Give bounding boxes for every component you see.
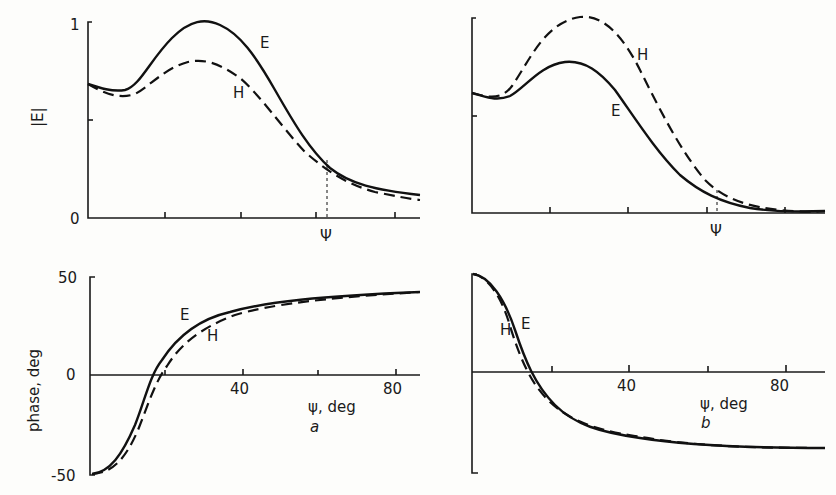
y-tick-1: 1 (70, 16, 80, 34)
label-h: H (637, 46, 648, 64)
curve-h (472, 17, 825, 212)
label-e: E (260, 34, 269, 52)
y-axis (472, 274, 478, 473)
label-h: H (500, 321, 511, 339)
y-tick-neg50: -50 (51, 467, 76, 485)
panel-a-magnitude: 1 0 |E| Ψ E H (29, 16, 420, 245)
panel-label-b: b (701, 414, 711, 432)
curve-e (88, 21, 420, 195)
x-tick-80: 80 (383, 380, 402, 398)
psi-marker: Ψ (320, 227, 332, 245)
label-e: E (180, 306, 189, 324)
x-ticks (165, 369, 396, 375)
figure: 1 0 |E| Ψ E H Ψ E H 50 0 -50 phase, deg … (0, 0, 836, 495)
x-axis-label: ψ, deg (308, 398, 356, 416)
y-tick-0: 0 (66, 366, 76, 384)
y-axis (472, 18, 825, 213)
label-e: E (611, 102, 620, 120)
label-h: H (207, 327, 218, 345)
y-axis (88, 22, 420, 218)
y-axis-label: phase, deg (25, 349, 43, 432)
x-axis-label: ψ, deg (700, 395, 748, 413)
panel-a-phase: 50 0 -50 phase, deg 40 80 ψ, deg a E H (25, 269, 420, 485)
y-axis (90, 277, 95, 475)
psi-marker: Ψ (710, 222, 722, 240)
panel-b-phase: 40 80 ψ, deg b H E (472, 274, 825, 473)
label-e: E (521, 315, 530, 333)
panel-b-magnitude: Ψ E H (472, 17, 825, 240)
y-tick-50: 50 (58, 269, 77, 287)
curve-e (472, 62, 825, 212)
y-axis-label: |E| (29, 107, 47, 127)
curve-e (92, 292, 420, 474)
curve-e (473, 274, 825, 448)
panel-label-a: a (310, 418, 319, 436)
x-ticks (165, 212, 395, 218)
label-h: H (233, 84, 244, 102)
x-tick-40: 40 (617, 377, 636, 395)
curve-h (92, 292, 420, 474)
y-tick-0: 0 (70, 210, 80, 228)
x-tick-40: 40 (230, 380, 249, 398)
x-tick-80: 80 (770, 377, 789, 395)
x-ticks (552, 365, 786, 372)
